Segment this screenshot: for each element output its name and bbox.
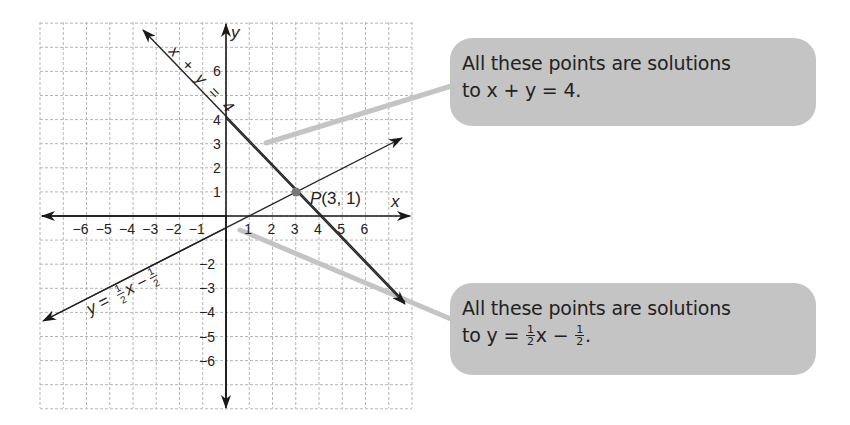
line2-label: y = 1 2 x − 1 2 [81,264,162,321]
fraction-denominator: 2 [526,336,535,347]
fraction-one-half: 12 [575,324,584,347]
y-tick-label: 2 [213,160,221,176]
svg-text:1: 1 [146,265,156,278]
y-tick-label: −6 [199,353,215,369]
callout-text-line1: All these points are solutions [462,295,802,322]
y-axis-label: y [230,23,241,42]
x-axis-tick-labels: −6−5−4−3−2−1123456 [73,221,369,237]
y-tick-label: 3 [213,136,221,152]
fraction-one-half: 12 [526,324,535,347]
x-tick-label: −2 [166,221,182,237]
x-tick-label: 2 [268,221,276,237]
callout-text-line2: to x + y = 4. [462,77,802,104]
x-tick-label: 4 [314,221,322,237]
x-tick-label: −1 [189,221,205,237]
x-axis-label: x [390,192,400,211]
y-tick-label: −4 [199,304,215,320]
callout-mid: x − [536,324,574,346]
x-tick-label: −6 [73,221,89,237]
y-tick-label: 1 [213,184,221,200]
callout-text-line2: to y = 12x − 12. [462,322,802,349]
x-tick-label: −3 [142,221,158,237]
callout-pointer-1 [266,84,458,143]
fraction-denominator: 2 [575,336,584,347]
point-label: P(3, 1) [310,189,361,208]
y-tick-label: −2 [199,256,215,272]
y-tick-label: 6 [213,63,221,79]
callout-text-line1: All these points are solutions [462,50,802,77]
y-tick-label: 4 [213,112,221,128]
y-tick-label: −3 [199,280,215,296]
x-tick-label: 1 [244,221,252,237]
y-tick-label: −5 [199,329,215,345]
x-tick-label: 3 [291,221,299,237]
x-tick-label: −5 [96,221,112,237]
callout-box-line1: All these points are solutions to x + y … [450,38,816,126]
line-x-plus-y-equals-4-tail [226,118,405,304]
x-tick-label: −4 [119,221,135,237]
callout-suffix: . [585,324,591,346]
x-tick-label: 5 [337,221,345,237]
svg-text:x −: x − [121,272,151,300]
callout-box-line2: All these points are solutions to y = 12… [450,283,816,375]
svg-text:2: 2 [151,276,161,289]
x-tick-label: 6 [361,221,369,237]
intersection-point [292,188,301,197]
callout-prefix: to y = [462,324,525,346]
